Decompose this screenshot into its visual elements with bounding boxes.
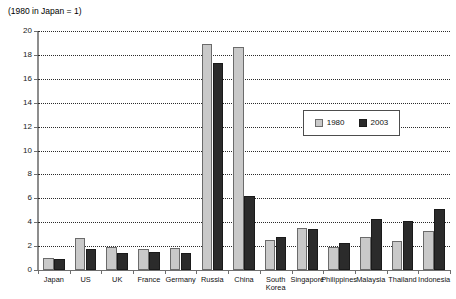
bar-2003-malaysia <box>371 219 382 270</box>
x-tick-mark <box>323 270 324 274</box>
bar-1980-france <box>138 249 149 271</box>
bar-2003-russia <box>213 63 224 270</box>
x-tick-mark <box>70 270 71 274</box>
bar-2003-japan <box>54 259 65 270</box>
bar-group <box>196 31 228 270</box>
bar-group <box>323 31 355 270</box>
x-tick-mark <box>165 270 166 274</box>
bar-group <box>133 31 165 270</box>
legend-item-2003: 2003 <box>359 119 389 127</box>
chart-title: (1980 in Japan = 1) <box>8 6 81 16</box>
legend-label-2003: 2003 <box>371 119 389 127</box>
y-tick-label: 10 <box>6 147 32 155</box>
bar-1980-malaysia <box>360 237 371 270</box>
bar-1980-thailand <box>392 241 403 270</box>
x-tick-mark <box>418 270 419 274</box>
y-tick-label: 0 <box>6 266 32 274</box>
bar-1980-russia <box>202 44 213 270</box>
bar-2003-singapore <box>308 229 319 270</box>
x-tick-mark <box>260 270 261 274</box>
bar-group <box>418 31 450 270</box>
legend-item-1980: 1980 <box>315 119 345 127</box>
y-tick-label: 12 <box>6 123 32 131</box>
bar-2003-philippines <box>339 243 350 270</box>
bar-2003-thailand <box>403 221 414 270</box>
bar-1980-china <box>233 47 244 270</box>
bar-2003-germany <box>181 253 192 270</box>
bar-chart: (1980 in Japan = 1) 02468101214161820 Ja… <box>0 0 456 299</box>
y-tick-label: 2 <box>6 242 32 250</box>
x-tick-mark <box>38 270 39 274</box>
y-tick-label: 20 <box>6 27 32 35</box>
x-tick-mark <box>228 270 229 274</box>
bar-1980-south-korea <box>265 240 276 270</box>
bar-group <box>387 31 419 270</box>
bar-2003-china <box>244 196 255 270</box>
chart-legend: 1980 2003 <box>303 110 400 136</box>
x-category-label: Indonesia <box>414 276 454 284</box>
bar-1980-japan <box>43 258 54 270</box>
bar-1980-us <box>75 238 86 270</box>
y-tick-label: 4 <box>6 218 32 226</box>
bar-group <box>38 31 70 270</box>
y-tick-label: 16 <box>6 75 32 83</box>
y-tick-label: 6 <box>6 194 32 202</box>
x-tick-mark <box>292 270 293 274</box>
bar-1980-philippines <box>328 247 339 270</box>
legend-label-1980: 1980 <box>327 119 345 127</box>
bar-2003-us <box>86 249 97 270</box>
bar-2003-uk <box>117 253 128 270</box>
bar-group <box>165 31 197 270</box>
x-tick-mark <box>355 270 356 274</box>
x-tick-mark <box>133 270 134 274</box>
legend-swatch-1980 <box>315 119 323 127</box>
y-tick-label: 18 <box>6 51 32 59</box>
bar-1980-singapore <box>297 228 308 270</box>
bar-group <box>70 31 102 270</box>
bar-1980-uk <box>106 247 117 270</box>
legend-swatch-2003 <box>359 119 367 127</box>
x-axis-line <box>37 270 451 271</box>
bar-group <box>292 31 324 270</box>
x-tick-mark <box>450 270 451 274</box>
bar-group <box>101 31 133 270</box>
bar-group <box>355 31 387 270</box>
bar-2003-south-korea <box>276 237 287 270</box>
bar-group <box>228 31 260 270</box>
bar-group <box>260 31 292 270</box>
y-tick-label: 8 <box>6 170 32 178</box>
y-tick-label: 14 <box>6 99 32 107</box>
x-tick-mark <box>387 270 388 274</box>
x-tick-mark <box>196 270 197 274</box>
bar-1980-germany <box>170 248 181 270</box>
bar-1980-indonesia <box>423 231 434 270</box>
bar-2003-indonesia <box>434 209 445 270</box>
bar-2003-france <box>149 252 160 270</box>
x-tick-mark <box>101 270 102 274</box>
